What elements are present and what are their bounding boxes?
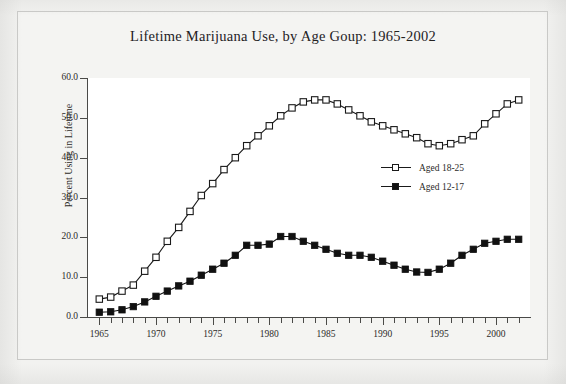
x-axis-minor-tick <box>519 318 520 323</box>
x-axis-tick-label: 1995 <box>419 329 459 339</box>
y-axis-tick <box>80 277 87 278</box>
x-axis-minor-tick <box>224 318 225 323</box>
data-point-marker <box>255 133 261 139</box>
data-point-marker <box>436 266 442 272</box>
data-point-marker <box>414 269 420 275</box>
legend-swatch-filled-square <box>381 181 411 192</box>
data-point-marker <box>119 307 125 313</box>
data-point-marker <box>278 233 284 239</box>
data-point-marker <box>108 294 114 300</box>
data-point-marker <box>357 252 363 258</box>
x-axis-minor-tick <box>247 318 248 323</box>
data-point-marker <box>402 266 408 272</box>
x-axis-major-tick <box>439 318 440 325</box>
chart-legend: Aged 18-25 Aged 12-17 <box>381 158 464 196</box>
legend-label-aged-18-25: Aged 18-25 <box>419 163 464 173</box>
x-axis-minor-tick <box>371 318 372 323</box>
data-point-marker <box>334 250 340 256</box>
x-axis-minor-tick <box>405 318 406 323</box>
x-axis-minor-tick <box>394 318 395 323</box>
x-axis-tick-label: 1985 <box>306 329 346 339</box>
chart-page: Lifetime Marijuana Use, by Age Goup: 196… <box>0 0 566 384</box>
x-axis-tick-label: 1990 <box>363 329 403 339</box>
y-axis-tick-label: 50.0 <box>32 112 78 122</box>
data-point-marker <box>187 208 193 214</box>
y-axis-tick-label: 40.0 <box>32 152 78 162</box>
data-point-marker <box>164 288 170 294</box>
data-point-marker <box>255 242 261 248</box>
x-axis-tick-label: 1975 <box>193 329 233 339</box>
y-axis-tick-label: 10.0 <box>32 271 78 281</box>
plot-area <box>88 78 530 317</box>
data-point-marker <box>244 143 250 149</box>
data-point-marker <box>368 119 374 125</box>
data-point-marker <box>357 113 363 119</box>
data-point-marker <box>402 131 408 137</box>
data-point-marker <box>300 238 306 244</box>
x-axis-minor-tick <box>179 318 180 323</box>
x-axis-minor-tick <box>349 318 350 323</box>
x-axis-minor-tick <box>111 318 112 323</box>
x-axis-minor-tick <box>258 318 259 323</box>
data-point-marker <box>312 242 318 248</box>
x-axis-minor-tick <box>485 318 486 323</box>
y-axis-tick <box>80 118 87 119</box>
data-point-marker <box>516 236 522 242</box>
data-point-marker <box>323 97 329 103</box>
data-point-marker <box>164 238 170 244</box>
data-point-marker <box>130 282 136 288</box>
data-point-marker <box>448 260 454 266</box>
data-point-marker <box>130 303 136 309</box>
data-point-marker <box>221 260 227 266</box>
data-point-marker <box>334 101 340 107</box>
data-point-marker <box>482 121 488 127</box>
legend-swatch-open-square <box>381 162 411 173</box>
y-axis-tick <box>80 237 87 238</box>
y-axis-tick <box>80 158 87 159</box>
series-line-aged-18-25 <box>99 100 518 299</box>
x-axis-minor-tick <box>303 318 304 323</box>
series-canvas <box>88 78 530 317</box>
data-point-marker <box>380 123 386 129</box>
data-point-marker <box>176 224 182 230</box>
x-axis-minor-tick <box>167 318 168 323</box>
x-axis-minor-tick <box>190 318 191 323</box>
x-axis-minor-tick <box>281 318 282 323</box>
data-point-marker <box>289 105 295 111</box>
y-axis-tick <box>80 317 87 318</box>
x-axis-major-tick <box>383 318 384 325</box>
data-point-marker <box>346 107 352 113</box>
x-axis-minor-tick <box>428 318 429 323</box>
data-point-marker <box>210 266 216 272</box>
data-point-marker <box>119 288 125 294</box>
x-axis-minor-tick <box>417 318 418 323</box>
data-point-marker <box>221 166 227 172</box>
legend-label-aged-12-17: Aged 12-17 <box>419 182 464 192</box>
data-point-marker <box>482 240 488 246</box>
data-point-marker <box>493 111 499 117</box>
data-point-marker <box>198 272 204 278</box>
x-axis-minor-tick <box>145 318 146 323</box>
y-axis-tick-label: 60.0 <box>32 72 78 82</box>
legend-item-aged-18-25: Aged 18-25 <box>381 158 464 177</box>
data-point-marker <box>142 268 148 274</box>
x-axis-minor-tick <box>337 318 338 323</box>
x-axis-minor-tick <box>133 318 134 323</box>
chart-title: Lifetime Marijuana Use, by Age Goup: 196… <box>0 28 566 45</box>
y-axis-tick-label: 0.0 <box>32 311 78 321</box>
x-axis-tick-label: 2000 <box>476 329 516 339</box>
data-point-marker <box>108 309 114 315</box>
x-axis-major-tick <box>326 318 327 325</box>
x-axis-major-tick <box>269 318 270 325</box>
y-axis-tick <box>80 78 87 79</box>
y-axis-tick-label: 20.0 <box>32 231 78 241</box>
x-axis-minor-tick <box>507 318 508 323</box>
x-axis-tick-label: 1965 <box>79 329 119 339</box>
x-axis-major-tick <box>99 318 100 325</box>
data-point-marker <box>289 233 295 239</box>
data-point-marker <box>470 133 476 139</box>
data-point-marker <box>266 123 272 129</box>
x-axis-major-tick <box>213 318 214 325</box>
data-point-marker <box>153 254 159 260</box>
legend-item-aged-12-17: Aged 12-17 <box>381 177 464 196</box>
